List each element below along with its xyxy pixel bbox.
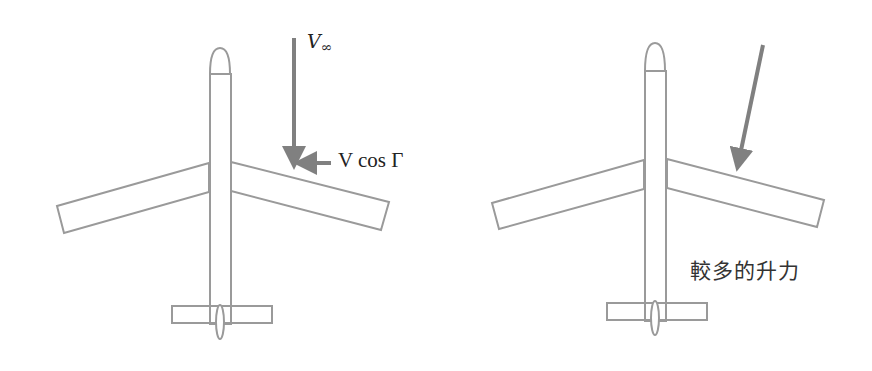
freestream-velocity-symbol: V — [307, 30, 321, 52]
diagram-canvas — [0, 0, 872, 371]
freestream-infinity-subscript: ∞ — [321, 39, 333, 55]
oblique-freestream-arrow — [739, 45, 763, 160]
more-lift-label: 較多的升力 — [690, 254, 800, 284]
freestream-velocity-label: V∞ — [307, 30, 332, 55]
right-nose-cone — [645, 43, 665, 71]
left-vertical-tail — [216, 305, 224, 339]
left-port-wing — [57, 163, 209, 233]
right-arrows — [739, 45, 763, 160]
right-starboard-wing — [667, 159, 824, 227]
spanwise-component-label: V cos Γ — [338, 148, 403, 173]
left-nose-cone — [210, 48, 230, 74]
right-port-wing — [492, 160, 644, 229]
left-fuselage — [210, 74, 231, 324]
right-aircraft — [492, 43, 824, 335]
left-aircraft — [57, 48, 389, 339]
right-vertical-tail — [651, 301, 659, 335]
right-fuselage — [645, 71, 666, 321]
left-arrows — [294, 38, 331, 163]
